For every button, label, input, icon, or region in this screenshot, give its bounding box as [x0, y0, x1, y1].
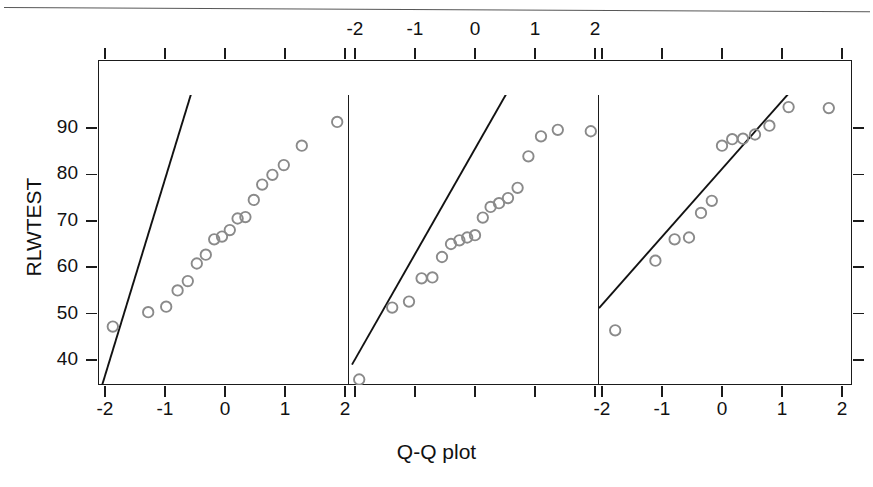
- data-point: [738, 133, 748, 143]
- x-tick-bottom: [344, 386, 346, 397]
- x-tick-bottom: [284, 386, 286, 397]
- x-tick-bottom: [534, 386, 536, 397]
- y-tick-right: [853, 313, 864, 315]
- x-tick-label-bottom: -1: [145, 398, 185, 420]
- data-point: [267, 170, 277, 180]
- data-point: [108, 321, 118, 331]
- x-tick-label-bottom: 0: [205, 398, 245, 420]
- y-tick-left: [86, 266, 97, 268]
- data-point: [610, 325, 620, 335]
- x-tick-label-top: 1: [515, 18, 555, 40]
- data-point: [503, 193, 513, 203]
- y-tick-left: [86, 220, 97, 222]
- data-point: [387, 302, 397, 312]
- x-tick-top: [594, 48, 596, 59]
- data-point: [523, 151, 533, 161]
- x-tick-bottom: [661, 386, 663, 397]
- data-point: [172, 285, 182, 295]
- x-tick-label-bottom: -2: [85, 398, 125, 420]
- panel-early: [598, 95, 852, 385]
- panel-late-canvas: [348, 95, 598, 385]
- x-tick-top: [534, 48, 536, 59]
- y-axis-title: RLWTEST: [22, 97, 46, 357]
- data-point: [696, 208, 706, 218]
- x-axis-title: Q-Q plot: [0, 440, 873, 464]
- data-point: [332, 117, 342, 127]
- data-point: [764, 120, 774, 130]
- x-tick-bottom: [781, 386, 783, 397]
- x-tick-top: [414, 48, 416, 59]
- data-point: [684, 232, 694, 242]
- y-tick-left: [86, 359, 97, 361]
- data-point: [427, 272, 437, 282]
- data-point: [161, 301, 171, 311]
- x-tick-label-top: -2: [335, 18, 375, 40]
- data-point: [437, 252, 447, 262]
- x-tick-top: [284, 48, 286, 59]
- x-tick-top: [661, 48, 663, 59]
- y-tick-right: [853, 359, 864, 361]
- x-tick-label-top: -1: [395, 18, 435, 40]
- x-tick-label-bottom: 2: [325, 398, 365, 420]
- data-point: [512, 183, 522, 193]
- panels-container: [98, 95, 852, 385]
- data-point: [727, 134, 737, 144]
- x-tick-label-top: 2: [575, 18, 615, 40]
- data-point: [183, 276, 193, 286]
- data-point: [404, 296, 414, 306]
- x-tick-bottom: [414, 386, 416, 397]
- data-point: [536, 131, 546, 141]
- y-tick-left: [86, 127, 97, 129]
- qq-plot-figure: Non Late Early -2-1012-2-1012-2-10124050…: [0, 0, 873, 487]
- data-point: [416, 273, 426, 283]
- x-tick-top: [601, 48, 603, 59]
- data-point: [225, 225, 235, 235]
- x-tick-top: [354, 48, 356, 59]
- x-tick-label-bottom: -1: [642, 398, 682, 420]
- x-tick-bottom: [104, 386, 106, 397]
- x-tick-bottom: [354, 386, 356, 397]
- x-tick-bottom: [721, 386, 723, 397]
- panel-non-canvas: [98, 95, 348, 385]
- x-tick-label-top: 0: [455, 18, 495, 40]
- data-point: [297, 140, 307, 150]
- qq-reference-line: [102, 95, 192, 385]
- y-tick-left: [86, 313, 97, 315]
- data-point: [824, 103, 834, 113]
- data-point: [707, 196, 717, 206]
- x-tick-top: [224, 48, 226, 59]
- y-tick-right: [853, 266, 864, 268]
- data-point: [143, 307, 153, 317]
- x-tick-bottom: [594, 386, 596, 397]
- x-tick-top: [164, 48, 166, 59]
- x-tick-top: [474, 48, 476, 59]
- panel-non: [98, 95, 348, 385]
- x-tick-bottom: [474, 386, 476, 397]
- data-point: [669, 234, 679, 244]
- x-tick-label-bottom: 0: [702, 398, 742, 420]
- data-point: [717, 140, 727, 150]
- x-tick-top: [781, 48, 783, 59]
- data-point: [354, 374, 364, 384]
- x-tick-label-bottom: -2: [582, 398, 622, 420]
- data-point: [249, 195, 259, 205]
- data-point: [279, 160, 289, 170]
- qq-reference-line: [599, 95, 791, 308]
- data-point: [650, 256, 660, 266]
- data-point: [783, 102, 793, 112]
- x-tick-label-bottom: 2: [822, 398, 862, 420]
- y-tick-right: [853, 174, 864, 176]
- x-tick-bottom: [841, 386, 843, 397]
- data-point: [478, 212, 488, 222]
- y-tick-left: [86, 174, 97, 176]
- qq-reference-line: [352, 95, 508, 365]
- x-tick-top: [721, 48, 723, 59]
- x-tick-top: [841, 48, 843, 59]
- x-tick-bottom: [601, 386, 603, 397]
- data-point: [257, 179, 267, 189]
- x-tick-label-bottom: 1: [265, 398, 305, 420]
- x-tick-label-bottom: 1: [762, 398, 802, 420]
- x-tick-top: [104, 48, 106, 59]
- data-point: [553, 125, 563, 135]
- y-tick-right: [853, 220, 864, 222]
